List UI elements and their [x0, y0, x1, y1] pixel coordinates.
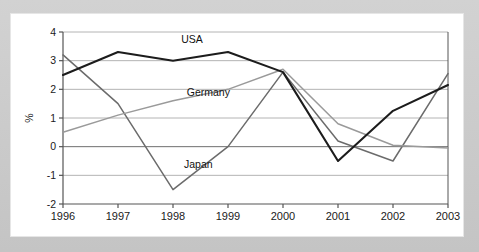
- x-tick-label: 1999: [216, 210, 240, 222]
- x-tick-label: 2002: [381, 210, 405, 222]
- y-axis-title: %: [23, 113, 35, 122]
- series-label-japan: Japan: [184, 158, 213, 170]
- y-tick-label: -1: [47, 169, 56, 181]
- x-tick-label: 2001: [326, 210, 350, 222]
- x-tick-label: 2003: [436, 210, 460, 222]
- screenshot-frame: -2-1012341996199719981999200020012002200…: [0, 0, 479, 252]
- x-tick-label: 1997: [106, 210, 130, 222]
- x-tick-label: 1996: [51, 210, 75, 222]
- y-tick-label: -2: [47, 198, 56, 210]
- x-tick-label: 1998: [161, 210, 185, 222]
- y-tick-label: 0: [50, 140, 56, 152]
- series-line-japan: [63, 55, 448, 190]
- series-label-germany: Germany: [187, 86, 231, 98]
- y-tick-label: 4: [50, 26, 56, 38]
- y-tick-label: 1: [50, 112, 56, 124]
- y-tick-label: 2: [50, 83, 56, 95]
- chart-svg: -2-1012341996199719981999200020012002200…: [11, 14, 463, 236]
- x-tick-label: 2000: [271, 210, 295, 222]
- chart-card: -2-1012341996199719981999200020012002200…: [11, 14, 463, 236]
- series-label-usa: USA: [181, 33, 203, 45]
- line-chart: -2-1012341996199719981999200020012002200…: [11, 14, 463, 236]
- y-tick-label: 3: [50, 54, 56, 66]
